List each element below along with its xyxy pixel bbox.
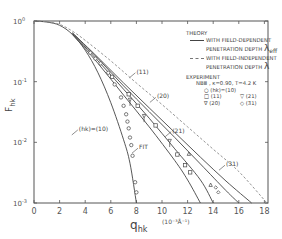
circle-marker <box>113 83 116 86</box>
legend-marker-label: (20) <box>209 100 220 106</box>
square-marker <box>110 75 113 78</box>
x-tick-label: 16 <box>234 207 244 216</box>
legend-marker-10: ○ (hk)=(10) <box>204 87 277 94</box>
triangle-down-marker <box>168 139 171 142</box>
square-marker <box>136 104 139 107</box>
annotation-leader <box>219 165 225 170</box>
lambda-eff-sub: eff <box>269 47 277 54</box>
circle-marker <box>94 57 97 60</box>
annotation-leader <box>165 132 171 137</box>
x-tick-label: 6 <box>108 207 113 216</box>
x-axis-label-sub: hk <box>138 225 148 234</box>
legend-dashed-label-1: WITH FIELD-INDEPENDENT <box>206 55 277 61</box>
circle-marker <box>131 154 134 157</box>
x-axis-unit: (10⁻³Å⁻¹) <box>162 218 190 225</box>
circle-marker <box>107 71 110 74</box>
square-marker <box>154 124 157 127</box>
x-tick-label: 14 <box>208 207 218 216</box>
curve-annotation: (20) <box>157 93 169 99</box>
triangle-marker-icon: ▽ <box>240 93 244 99</box>
y-axis-label-sub: hk <box>9 98 17 107</box>
annotation-leader <box>129 73 135 78</box>
x-tick-label: 18 <box>259 207 269 216</box>
diamond-marker <box>214 186 217 189</box>
curve-annotation: (11) <box>136 69 148 75</box>
legend-marker-21: ▽ (21) <box>240 93 270 100</box>
legend-sample: NBⅢ , κ=0.90, T=4.2 K <box>196 80 277 87</box>
triangle-up-marker <box>187 152 190 155</box>
x-tick-label: 12 <box>183 207 193 216</box>
nabla-marker-icon: ∇ <box>204 100 208 106</box>
legend-marker-label: (21) <box>246 93 257 99</box>
circle-marker <box>133 181 136 184</box>
y-tick-label: 10-3 <box>13 198 27 208</box>
triangle-down-marker <box>142 114 145 117</box>
x-tick-label: 2 <box>57 207 62 216</box>
legend-solid-label-2: PENETRATION DEPTH <box>206 46 262 52</box>
annotation-leader <box>150 97 156 102</box>
x-axis-label: qhk <box>130 218 147 234</box>
x-tick-label: 10 <box>157 207 167 216</box>
legend-solid-entry-line2: PENETRATION DEPTH λeff <box>206 43 277 55</box>
legend: THEORY WITH FIELD-DEPENDENT PENETRATION … <box>186 30 277 107</box>
y-axis-label: Fhk <box>4 98 17 112</box>
legend-solid-label-1: WITH FIELD-DEPENDENT <box>206 37 271 43</box>
x-axis-label-main: q <box>130 218 138 232</box>
diamond-marker <box>217 191 220 194</box>
triangle-up-marker <box>209 183 212 186</box>
x-tick-label: 8 <box>134 207 139 216</box>
legend-marker-label: (hk)=(10) <box>210 87 236 93</box>
circle-marker <box>124 113 127 116</box>
curve-annotation: (31) <box>226 161 238 167</box>
square-marker <box>127 93 130 96</box>
square-marker-icon: □ <box>204 93 209 99</box>
circle-marker <box>119 96 122 99</box>
curve-annotation: (21) <box>172 128 184 134</box>
square-marker <box>176 153 179 156</box>
circle-marker <box>130 143 133 146</box>
curve-annotation: (hk)=(10) <box>79 126 108 132</box>
y-tick-label: 10-2 <box>13 137 27 147</box>
lambda-symbol: λ <box>264 61 269 71</box>
legend-solid-entry: WITH FIELD-DEPENDENT <box>190 37 277 44</box>
legend-experiment-title: EXPERIMENT <box>186 74 277 81</box>
y-axis-label-main: F <box>4 107 14 112</box>
legend-dashed-label-2: PENETRATION DEPTH <box>206 64 262 70</box>
legend-marker-11: □ (11) <box>204 93 240 100</box>
circle-marker-icon: ○ <box>204 87 209 93</box>
x-tick-label: 0 <box>31 207 36 216</box>
legend-marker-label: (31) <box>246 100 257 106</box>
legend-marker-31: ◇ (31) <box>240 100 270 107</box>
circle-marker <box>135 191 138 194</box>
circle-marker <box>122 104 125 107</box>
circle-marker <box>128 136 131 139</box>
circle-marker <box>126 120 129 123</box>
annotation-leader <box>132 148 138 153</box>
dashed-line-swatch <box>190 58 204 59</box>
annotation-leader <box>72 130 78 135</box>
legend-marker-20: ∇ (20) <box>204 100 240 107</box>
circle-marker <box>89 51 92 54</box>
legend-marker-label: (11) <box>211 93 222 99</box>
legend-marker-grid: □ (11) ▽ (21) ∇ (20) ◇ (31) <box>204 93 277 106</box>
y-tick-label: 100 <box>13 16 25 26</box>
legend-dashed-entry-line2: PENETRATION DEPTH λ <box>206 61 277 72</box>
x-tick-label: 4 <box>83 207 88 216</box>
legend-theory-title: THEORY <box>186 30 277 37</box>
legend-dashed-entry: WITH FIELD-INDEPENDENT <box>190 55 277 62</box>
circle-marker <box>99 62 102 65</box>
square-marker <box>188 171 191 174</box>
circle-marker <box>127 127 130 130</box>
diamond-marker-icon: ◇ <box>240 100 244 106</box>
y-tick-label: 10-1 <box>13 77 27 87</box>
solid-line-swatch <box>190 40 204 41</box>
curve-annotation: FIT <box>139 144 148 150</box>
square-marker <box>183 163 186 166</box>
